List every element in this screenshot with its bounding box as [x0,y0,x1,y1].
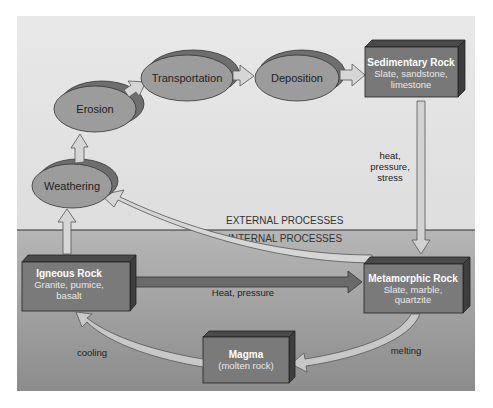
heat-pressure-label: Heat, pressure [212,287,274,298]
rock-metamorphic: Metamorphic Rock Slate, marble, quartzit… [364,257,470,313]
sedimentary-title: Sedimentary Rock [367,57,455,68]
pressure-label: pressure, [370,161,410,172]
heat-label: heat, [379,150,400,161]
erosion-label: Erosion [76,103,113,115]
external-processes-label: EXTERNAL PROCESSES [226,215,344,226]
melting-label: melting [391,345,422,356]
magma-description: (molten rock) [218,360,273,371]
metamorphic-title: Metamorphic Rock [368,273,458,284]
magma-title: Magma [229,349,264,360]
metamorphic-examples-2: quartzite [395,294,431,305]
igneous-examples-1: Granite, pumice, [34,279,104,290]
transportation-label: Transportation [152,72,223,84]
stress-label: stress [377,172,403,183]
deposition-label: Deposition [271,72,323,84]
igneous-examples-2: basalt [56,290,82,301]
cooling-label: cooling [77,347,107,358]
rock-magma: Magma (molten rock) [203,331,295,383]
igneous-title: Igneous Rock [36,268,102,279]
sedimentary-examples-2: limestone [391,79,432,90]
sedimentary-examples-1: Slate, sandstone, [374,68,447,79]
rock-sedimentary: Sedimentary Rock Slate, sandstone, limes… [365,40,465,97]
weathering-label: Weathering [44,180,100,192]
rock-cycle-diagram: EXTERNAL PROCESSES INTERNAL PROCESSES We… [0,0,493,408]
rock-igneous: Igneous Rock Granite, pumice, basalt [22,255,136,311]
